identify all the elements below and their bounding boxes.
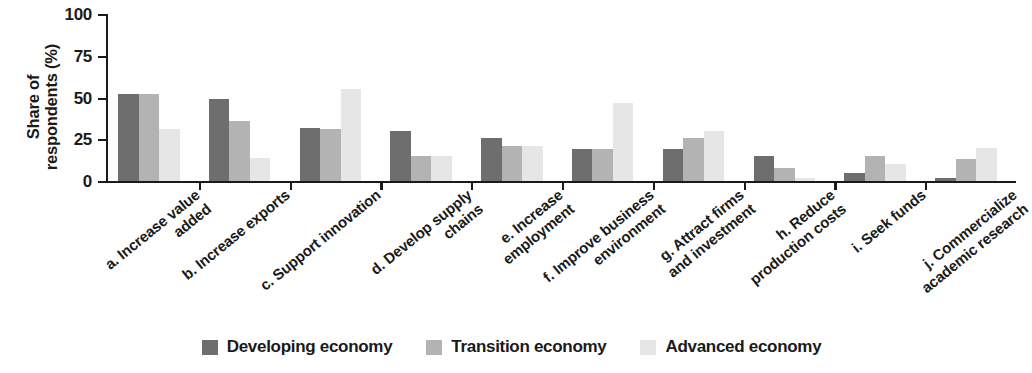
y-axis-title: Share of respondents (%) [20,27,64,187]
bar [139,94,160,181]
y-axis-tick: 0 [98,181,106,183]
y-axis-tick-label: 75 [74,47,92,67]
bar [341,89,362,181]
bar [704,131,725,181]
bar-group [108,14,199,181]
bar [844,173,865,181]
bar [754,156,775,181]
bar [522,146,543,181]
bar [956,159,977,181]
bar [300,128,321,181]
bar [885,164,906,181]
bar [976,148,997,181]
legend-label: Advanced economy [665,337,821,357]
chart-legend: Developing economyTransition economyAdva… [0,337,1023,357]
bar-groups [108,14,1016,181]
bar-group [925,14,1016,181]
y-axis-tick: 75 [98,56,106,58]
bar-group [290,14,381,181]
bar [390,131,411,181]
y-axis-tick-label: 25 [74,130,92,150]
bar-group [380,14,471,181]
bar [250,158,271,181]
y-axis-tick: 25 [98,139,106,141]
legend-item[interactable]: Developing economy [202,337,393,357]
bar [320,129,341,181]
y-axis-tick-label: 100 [65,5,92,25]
bar [613,103,634,181]
x-axis-category-label: c. Support innovation [187,186,385,351]
y-axis-tick-label: 50 [74,89,92,109]
legend-item[interactable]: Advanced economy [640,337,821,357]
legend-swatch-icon [640,340,656,355]
bar-group [199,14,290,181]
bar [683,138,704,181]
bar [481,138,502,181]
bar-group [471,14,562,181]
bar [118,94,139,181]
bar [865,156,886,181]
bar [663,149,684,181]
bar [209,99,230,181]
bar [229,121,250,181]
legend-swatch-icon [202,340,218,355]
y-axis-tick: 50 [98,98,106,100]
bar [935,178,956,181]
legend-item[interactable]: Transition economy [426,337,606,357]
bar-group [744,14,835,181]
bar [774,168,795,181]
bar-group [653,14,744,181]
legend-label: Developing economy [227,337,393,357]
bar [572,149,593,181]
bar [411,156,432,181]
bar [159,129,180,181]
legend-label: Transition economy [451,337,606,357]
bar [502,146,523,181]
plot-area: 0255075100 [106,14,1016,183]
bar [431,156,452,181]
bar-group [834,14,925,181]
bar [795,178,816,181]
bar-group [562,14,653,181]
y-axis-title-text: Share of respondents (%) [24,44,61,170]
bar [592,149,613,181]
y-axis-tick-label: 0 [83,172,92,192]
y-axis-tick: 100 [98,14,106,16]
x-axis-category-labels: a. Increase value addedb. Increase expor… [108,186,1016,316]
legend-swatch-icon [426,340,442,355]
